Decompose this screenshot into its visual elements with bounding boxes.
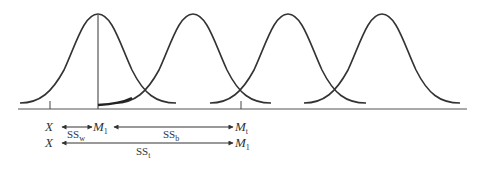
- label-ssw: SSw: [67, 129, 85, 143]
- label-ssb: SSb: [163, 129, 179, 143]
- normal-curve-4: [304, 14, 460, 103]
- label-m1-row2: M1: [235, 136, 250, 152]
- label-sst: SSt: [136, 146, 150, 160]
- label-m1-row1: M1: [93, 120, 108, 136]
- label-x-row1: X: [45, 120, 53, 133]
- label-x-row2: X: [45, 136, 53, 149]
- normal-curve-2: [115, 14, 271, 103]
- normal-curve-3: [210, 14, 366, 103]
- label-mt-row1: Mt: [235, 120, 248, 136]
